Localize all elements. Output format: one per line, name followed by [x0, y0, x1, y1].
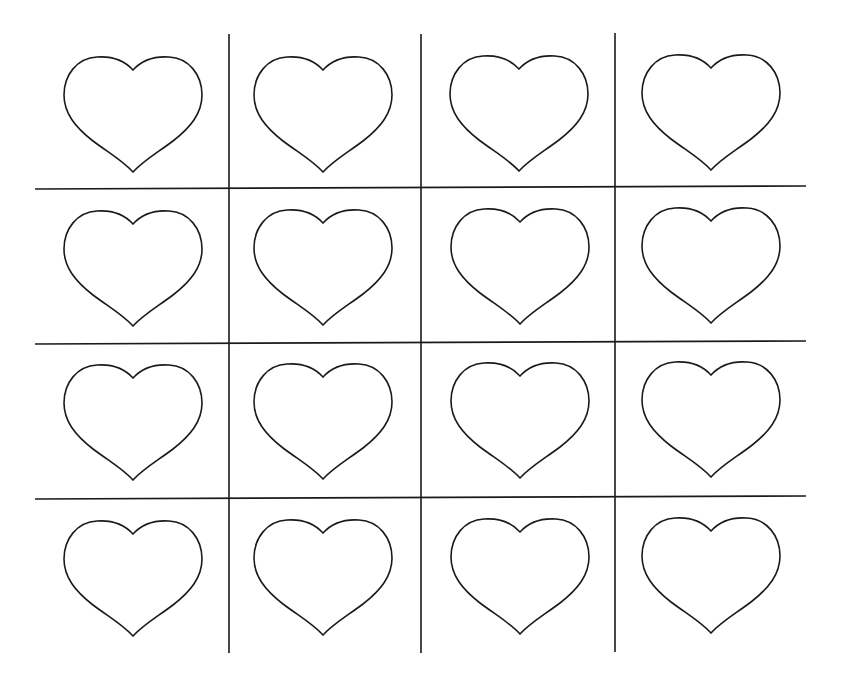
heart-icon [254, 57, 392, 172]
heart-icon [642, 362, 780, 477]
heart-icon [451, 519, 589, 634]
heart-icon [450, 56, 588, 171]
heart-icon [642, 518, 780, 633]
heart-grid-worksheet [0, 0, 845, 677]
heart-icon [451, 363, 589, 478]
heart-icon [254, 210, 392, 325]
heart-icon [64, 211, 202, 326]
heart-icon [642, 208, 780, 323]
hearts-group [64, 55, 780, 636]
heart-icon [64, 365, 202, 480]
heart-icon [254, 364, 392, 479]
heart-icon [64, 57, 202, 172]
heart-icon [64, 521, 202, 636]
heart-icon [451, 209, 589, 324]
heart-icon [254, 520, 392, 635]
heart-icon [642, 55, 780, 170]
